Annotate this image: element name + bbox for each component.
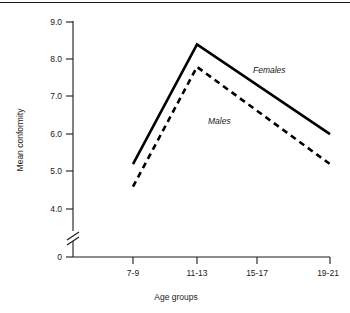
y-tick-label-9: 9.0 <box>50 17 62 27</box>
y-tick-label-0: 0 <box>57 252 62 262</box>
y-tick-label-6: 6.0 <box>50 129 62 139</box>
y-tick-label-8: 8.0 <box>50 54 62 64</box>
series-label-males: Males <box>208 116 231 126</box>
y-tick-label-4: 4.0 <box>50 204 62 214</box>
y-axis-title: Mean conformity <box>15 108 25 172</box>
y-tick-label-7: 7.0 <box>50 91 62 101</box>
x-tick-label-1: 11-13 <box>186 268 207 278</box>
x-tick-label-0: 7-9 <box>127 268 140 278</box>
chart-figure: 9.0 8.0 7.0 6.0 5.0 4.0 0 7-9 11-13 15-1… <box>0 0 350 313</box>
series-label-females: Females <box>253 65 286 75</box>
x-tick-label-2: 15-17 <box>246 268 268 278</box>
x-tick-label-3: 19-21 <box>317 268 339 278</box>
series-line-males <box>133 67 330 187</box>
y-tick-label-5: 5.0 <box>50 166 62 176</box>
x-axis-title: Age groups <box>154 292 197 302</box>
line-chart: 9.0 8.0 7.0 6.0 5.0 4.0 0 7-9 11-13 15-1… <box>0 0 350 313</box>
series-line-females <box>133 44 330 164</box>
